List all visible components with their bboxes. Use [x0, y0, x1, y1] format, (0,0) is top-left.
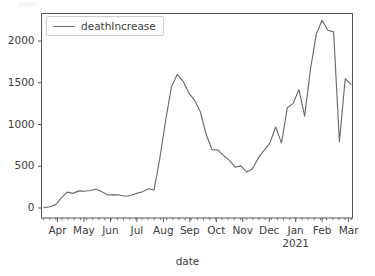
legend-line-swatch	[53, 26, 75, 27]
x-axis-major-ticks	[58, 218, 349, 222]
x-tick-label: Mar	[329, 224, 369, 236]
y-tick-label: 1500	[0, 76, 35, 88]
y-axis-ticks	[38, 41, 42, 208]
chart-legend[interactable]: deathIncrease	[46, 16, 164, 36]
chart-figure: 0500100015002000 AprMayJunJulAugSepOctNo…	[0, 0, 375, 276]
legend-label: deathIncrease	[81, 20, 156, 32]
plot-frame	[42, 14, 353, 219]
y-tick-label: 500	[0, 159, 35, 171]
y-tick-label: 0	[0, 201, 35, 213]
y-tick-label: 2000	[0, 34, 35, 46]
y-tick-label: 1000	[0, 118, 35, 130]
x-axis-label: date	[0, 255, 375, 267]
x-tick-year-label: 2021	[276, 237, 316, 249]
